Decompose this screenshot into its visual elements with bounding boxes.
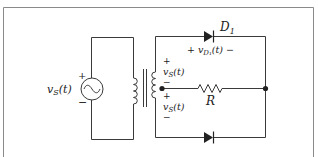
diode-voltage-label: + vD₁(t) − xyxy=(187,44,234,57)
transformer-core-icon xyxy=(144,69,147,107)
primary-coil-icon xyxy=(134,78,138,104)
source-label: vS(t) xyxy=(47,83,72,97)
resistor-icon xyxy=(198,85,222,93)
circuit-diagram: + − vS(t) D1 + vD₁(t) − + vS(t) − + vS xyxy=(0,0,318,157)
upper-plus: + xyxy=(163,56,171,66)
source-minus: − xyxy=(78,96,87,109)
lower-minus: − xyxy=(163,112,171,122)
diode-d1-label: D1 xyxy=(219,20,235,36)
upper-minus: − xyxy=(163,77,171,87)
output-node xyxy=(263,86,268,91)
diode-d2-icon xyxy=(204,132,214,144)
resistor-label: R xyxy=(205,94,215,108)
secondary-coil-icon xyxy=(152,72,156,98)
diode-d1-icon xyxy=(204,31,214,43)
source-plus: + xyxy=(78,70,86,81)
lower-plus: + xyxy=(163,91,171,101)
